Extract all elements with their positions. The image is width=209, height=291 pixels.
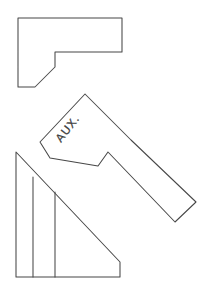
sheet-background xyxy=(0,0,209,291)
engineering-sketch-canvas: AUX. xyxy=(0,0,209,291)
sketch-sheet: AUX. xyxy=(0,0,209,291)
